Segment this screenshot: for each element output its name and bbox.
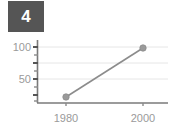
data-point-1980: [63, 94, 69, 100]
chart-svg: 100 50 1980 2000: [0, 0, 172, 135]
chart-figure: 4: [0, 0, 172, 135]
x-tick-label-2000: 2000: [131, 112, 155, 124]
y-tick-label-100: 100: [13, 41, 31, 53]
data-line-series-1: [66, 48, 143, 97]
line-chart: 100 50 1980 2000: [0, 0, 172, 135]
x-tick-label-1980: 1980: [54, 112, 78, 124]
data-point-2000: [140, 45, 146, 51]
y-tick-label-50: 50: [19, 73, 31, 85]
